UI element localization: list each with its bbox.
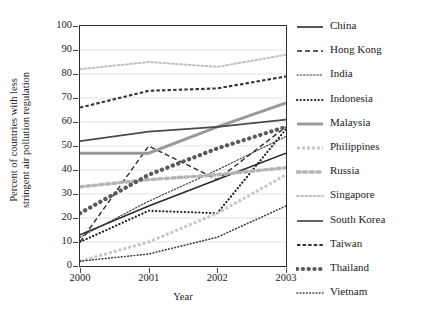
legend-item-thailand[interactable]: Thailand xyxy=(296,256,440,278)
legend-label: Vietnam xyxy=(330,285,367,297)
y-tick-label: 30 xyxy=(46,188,72,198)
legend-label: India xyxy=(330,67,353,79)
y-tick-label: 20 xyxy=(46,212,72,222)
y-tick-label: 40 xyxy=(46,164,72,174)
y-axis-title: Percent of countries with less stringent… xyxy=(0,0,40,280)
chart-legend: ChinaHong KongIndiaIndonesiaMalaysiaPhil… xyxy=(296,14,440,314)
legend-item-indonesia[interactable]: Indonesia xyxy=(296,87,440,109)
legend-swatch-icon xyxy=(296,140,324,152)
x-tick-mark xyxy=(286,268,287,273)
legend-swatch-icon xyxy=(296,213,324,225)
legend-item-hong-kong[interactable]: Hong Kong xyxy=(296,38,440,60)
x-axis-title: Year xyxy=(79,291,287,302)
y-tick-label: 50 xyxy=(46,140,72,150)
y-tick-label: 70 xyxy=(46,92,72,102)
y-tick-label: 0 xyxy=(46,260,72,270)
y-axis-title-line1: Percent of countries with less xyxy=(8,72,20,208)
y-tick-mark xyxy=(73,50,78,51)
legend-label: Russia xyxy=(330,164,359,176)
x-tick-label: 2000 xyxy=(55,272,105,283)
legend-label: Thailand xyxy=(330,261,369,273)
series-canvas xyxy=(80,26,286,266)
legend-label: China xyxy=(330,19,356,31)
y-tick-mark xyxy=(73,266,78,267)
legend-item-russia[interactable]: Russia xyxy=(296,159,440,181)
y-axis-title-line2: stringent air pollution regulation xyxy=(20,72,32,208)
y-tick-mark xyxy=(73,122,78,123)
x-tick-mark xyxy=(217,268,218,273)
legend-swatch-icon xyxy=(296,67,324,79)
legend-swatch-icon xyxy=(296,164,324,176)
legend-swatch-icon xyxy=(296,43,324,55)
legend-label: Philippines xyxy=(330,140,380,152)
x-tick-label: 2003 xyxy=(261,272,311,283)
legend-label: Singapore xyxy=(330,188,375,200)
y-tick-mark xyxy=(73,242,78,243)
legend-label: Indonesia xyxy=(330,92,373,104)
y-tick-label: 90 xyxy=(46,44,72,54)
y-tick-mark xyxy=(73,26,78,27)
x-tick-mark xyxy=(80,268,81,273)
legend-swatch-icon xyxy=(296,19,324,31)
legend-item-philippines[interactable]: Philippines xyxy=(296,135,440,157)
legend-label: Taiwan xyxy=(330,237,362,249)
x-tick-mark xyxy=(149,268,150,273)
series-line-taiwan xyxy=(80,76,286,107)
plot-area xyxy=(79,25,287,267)
y-tick-label: 60 xyxy=(46,116,72,126)
y-tick-mark xyxy=(73,74,78,75)
y-tick-mark xyxy=(73,146,78,147)
legend-item-india[interactable]: India xyxy=(296,62,440,84)
legend-item-south-korea[interactable]: South Korea xyxy=(296,208,440,230)
y-tick-label: 80 xyxy=(46,68,72,78)
legend-item-taiwan[interactable]: Taiwan xyxy=(296,232,440,254)
y-tick-label: 10 xyxy=(46,236,72,246)
legend-item-china[interactable]: China xyxy=(296,14,440,36)
legend-swatch-icon xyxy=(296,116,324,128)
legend-swatch-icon xyxy=(296,237,324,249)
y-tick-mark xyxy=(73,194,78,195)
legend-swatch-icon xyxy=(296,188,324,200)
chart-figure: Percent of countries with less stringent… xyxy=(0,0,440,321)
y-tick-mark xyxy=(73,170,78,171)
legend-label: Hong Kong xyxy=(330,43,382,55)
legend-item-vietnam[interactable]: Vietnam xyxy=(296,280,440,302)
legend-swatch-icon xyxy=(296,285,324,297)
legend-item-malaysia[interactable]: Malaysia xyxy=(296,111,440,133)
y-tick-mark xyxy=(73,218,78,219)
y-tick-label: 100 xyxy=(46,20,72,30)
series-line-singapore xyxy=(80,55,286,69)
legend-swatch-icon xyxy=(296,92,324,104)
legend-label: Malaysia xyxy=(330,116,370,128)
x-tick-label: 2002 xyxy=(192,272,242,283)
y-tick-mark xyxy=(73,98,78,99)
legend-item-singapore[interactable]: Singapore xyxy=(296,183,440,205)
x-tick-label: 2001 xyxy=(124,272,174,283)
legend-label: South Korea xyxy=(330,213,385,225)
